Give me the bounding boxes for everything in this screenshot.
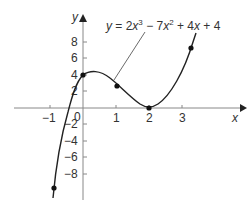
y-tick-label: 8 [71, 35, 78, 49]
equation-label: y = 2x3 − 7x2 + 4x + 4 [105, 18, 221, 33]
x-axis-label: x [231, 111, 239, 125]
y-axis-label: y [71, 10, 79, 24]
y-axis-arrow-icon [79, 14, 87, 22]
annotation-leader-line [114, 32, 145, 80]
x-tick-label: −1 [42, 111, 56, 125]
x-tick-label: 2 [146, 111, 153, 125]
data-point [51, 185, 56, 190]
data-point [188, 45, 193, 50]
cubic-function-graph: −1 0 1 2 3 x 8 6 4 2 −2 −4 −6 −8 y y = 2… [0, 0, 248, 213]
x-axis-arrow-icon [240, 104, 247, 112]
data-point [80, 72, 85, 77]
data-point [114, 83, 119, 88]
data-point [146, 105, 151, 110]
y-tick-label: −8 [64, 167, 78, 181]
y-tick-label: −4 [64, 134, 78, 148]
x-tick-label: 1 [113, 111, 120, 125]
y-tick-label: −6 [64, 150, 78, 164]
y-tick-label: 4 [71, 68, 78, 82]
y-tick-label: 6 [71, 51, 78, 65]
x-tick-label: 3 [179, 111, 186, 125]
